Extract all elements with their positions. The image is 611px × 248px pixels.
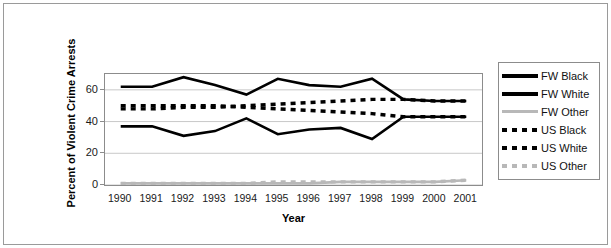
x-axis-title: Year: [104, 212, 483, 224]
dashed-line-swatch: [501, 160, 539, 172]
solid-line-swatch: [501, 106, 539, 118]
chart-legend: FW BlackFW WhiteFW OtherUS BlackUS White…: [498, 62, 600, 180]
x-axis-tick-label: 2001: [445, 192, 485, 204]
legend-item: US Black: [501, 121, 599, 139]
legend-item: US White: [501, 139, 599, 157]
solid-line-swatch: [501, 70, 539, 82]
series-line-fw-black: [121, 77, 467, 101]
legend-item: FW White: [501, 85, 599, 103]
plot-svg: [105, 74, 482, 185]
y-axis-tick-label: 40: [72, 116, 98, 127]
y-axis-tick-label: 20: [72, 147, 98, 158]
legend-item: FW Other: [501, 103, 599, 121]
solid-line-swatch: [501, 88, 539, 100]
series-line-fw-white: [121, 117, 467, 139]
legend-item-label: US Other: [541, 160, 587, 172]
legend-item-label: FW Other: [541, 106, 589, 118]
legend-item-label: FW White: [541, 88, 589, 100]
legend-item-label: FW Black: [541, 70, 588, 82]
dashed-line-swatch: [501, 124, 539, 136]
chart-screenshot: Percent of Violent Crime Arrests 6040200…: [0, 0, 611, 248]
series-line-us-other: [121, 180, 467, 183]
dashed-line-swatch: [501, 142, 539, 154]
y-axis-tick-label: 60: [72, 84, 98, 95]
legend-item: US Other: [501, 157, 599, 175]
y-axis-tick-label: 0: [72, 179, 98, 190]
plot-area: [104, 73, 483, 186]
legend-item: FW Black: [501, 67, 599, 85]
legend-item-label: US White: [541, 142, 587, 154]
legend-item-label: US Black: [541, 124, 586, 136]
